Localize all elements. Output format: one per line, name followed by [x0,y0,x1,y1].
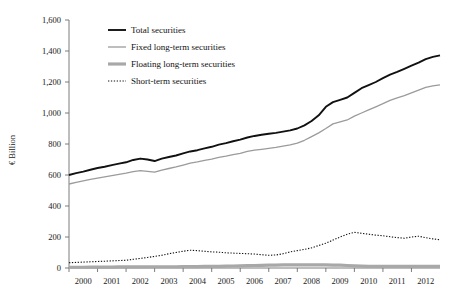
y-axis-tick-label: 1,600 [42,15,61,25]
x-axis-tick-label: 2007 [275,276,292,286]
x-axis-tick-label: 2008 [303,276,320,286]
y-axis-tick-label: 800 [48,139,61,149]
x-axis-tick-label: 2003 [160,276,177,286]
legend-label: Total securities [131,25,186,35]
y-axis-tick-label: 1,400 [42,46,61,56]
x-axis-tick-label: 2006 [246,276,263,286]
y-axis-tick-label: 600 [48,170,61,180]
chart-container: 02004006008001,0001,2001,4001,600 200020… [0,0,457,300]
x-axis-tick-label: 2000 [75,276,92,286]
y-axis-tick-label: 1,200 [42,77,61,87]
y-axis-tick-label: 0 [57,263,61,273]
y-axis-tick-label: 400 [48,201,61,211]
legend-label: Fixed long-term securities [131,42,226,52]
x-axis-tick-label: 2004 [189,276,207,286]
legend-label: Floating long-term securities [131,59,235,69]
x-axis-tick-label: 2011 [389,276,406,286]
y-axis-tick-label: 1,000 [42,108,61,118]
x-axis-tick-label: 2005 [217,276,234,286]
x-axis-tick-label: 2012 [417,276,434,286]
x-axis-tick-label: 2001 [103,276,120,286]
x-axis-tick-label: 2002 [132,276,149,286]
x-axis-tick-label: 2010 [360,276,377,286]
x-axis-tick-label: 2009 [332,276,349,286]
y-axis-title: € Billion [7,134,17,165]
legend-label: Short-term securities [131,76,207,86]
y-axis-tick-label: 200 [48,232,61,242]
line-chart: 02004006008001,0001,2001,4001,600 200020… [0,0,457,300]
